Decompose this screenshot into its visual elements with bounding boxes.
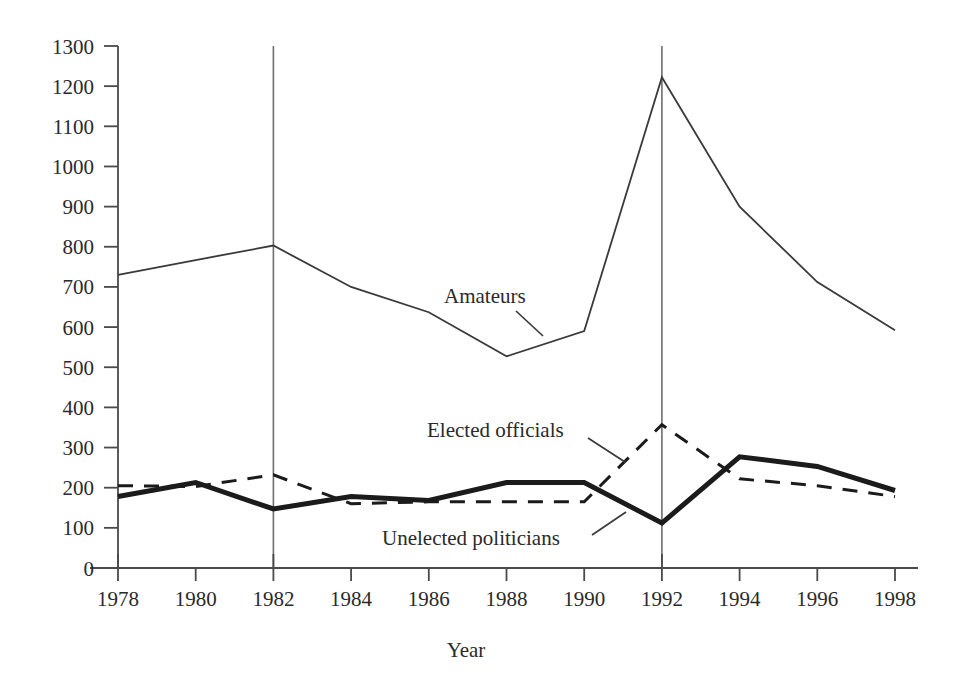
x-axis-title: Year: [447, 638, 486, 662]
y-tick-label-400: 400: [63, 396, 95, 420]
x-tick-label-1996: 1996: [796, 587, 838, 611]
y-tick-label-1000: 1000: [52, 155, 94, 179]
series-label-unelected-politicians: Unelected politicians: [382, 526, 560, 550]
annotation-group: AmateursElected officialsUnelected polit…: [382, 284, 626, 550]
y-tick-label-500: 500: [63, 356, 95, 380]
line-chart-figure: 0100200300400500600700800900100011001200…: [0, 0, 953, 689]
y-tick-label-0: 0: [84, 557, 95, 581]
y-tick-label-800: 800: [63, 235, 95, 259]
x-tick-label-1998: 1998: [874, 587, 916, 611]
x-tick-label-1980: 1980: [175, 587, 217, 611]
y-tick-label-100: 100: [63, 516, 95, 540]
y-tick-label-300: 300: [63, 436, 95, 460]
leader-line-unelected-politicians: [592, 512, 626, 535]
x-tick-label-1982: 1982: [252, 587, 294, 611]
y-tick-label-900: 900: [63, 195, 95, 219]
y-tick-label-1100: 1100: [53, 115, 94, 139]
x-tick-label-1992: 1992: [641, 587, 683, 611]
leader-line-amateurs: [516, 311, 543, 336]
y-tick-label-1300: 1300: [52, 35, 94, 59]
x-tick-label-1978: 1978: [97, 587, 139, 611]
y-tick-label-600: 600: [63, 316, 95, 340]
chart-container: 0100200300400500600700800900100011001200…: [0, 0, 953, 689]
x-tick-label-1986: 1986: [408, 587, 450, 611]
x-tick-label-1990: 1990: [563, 587, 605, 611]
x-tick-label-1984: 1984: [330, 587, 373, 611]
x-tick-label-1988: 1988: [486, 587, 528, 611]
x-tick-label-1994: 1994: [719, 587, 762, 611]
y-tick-label-200: 200: [63, 476, 95, 500]
series-line-unelected-politicians: [118, 457, 895, 523]
series-label-amateurs: Amateurs: [444, 284, 526, 308]
tick-mark-group: [104, 46, 895, 581]
series-label-elected-officials: Elected officials: [427, 418, 564, 442]
y-tick-label-700: 700: [63, 275, 95, 299]
series-line-amateurs: [118, 77, 895, 356]
x-tick-label-group: 1978198019821984198619881990199219941996…: [97, 587, 916, 611]
y-tick-label-group: 0100200300400500600700800900100011001200…: [52, 35, 94, 581]
leader-line-elected-officials: [588, 438, 625, 462]
y-tick-label-1200: 1200: [52, 75, 94, 99]
